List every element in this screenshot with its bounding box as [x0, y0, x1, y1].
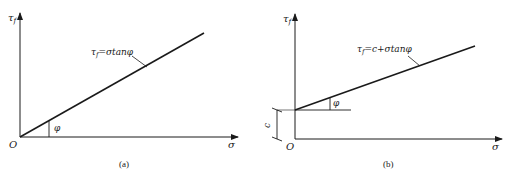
origin-label: O — [9, 139, 17, 150]
y-axis-label: τf — [8, 12, 18, 25]
angle-label: φ — [333, 98, 340, 108]
caption-b: (b) — [383, 159, 394, 169]
failure-envelope-line — [295, 46, 475, 110]
panel-b: c τf σ O φ τf=c+σtanφ (b) — [262, 13, 502, 169]
equation-leader-line — [132, 56, 147, 67]
x-axis-label: σ — [228, 139, 236, 150]
origin-label: O — [286, 141, 294, 152]
intercept-label: c — [262, 123, 272, 128]
equation-label: τf=c+σtanφ — [357, 44, 412, 56]
panel-a: τf σ O φ τf=σtanφ (a) — [8, 12, 238, 169]
angle-label: φ — [54, 123, 61, 133]
caption-a: (a) — [119, 159, 129, 169]
equation-leader-line — [408, 56, 420, 66]
y-axis-label: τf — [283, 13, 293, 26]
mohr-coulomb-diagrams: τf σ O φ τf=σtanφ (a) c τf σ O φ τf=c+σt… — [0, 0, 508, 183]
equation-label: τf=σtanφ — [91, 47, 134, 59]
x-axis-label: σ — [492, 141, 500, 152]
cohesion-dimension — [272, 108, 295, 141]
